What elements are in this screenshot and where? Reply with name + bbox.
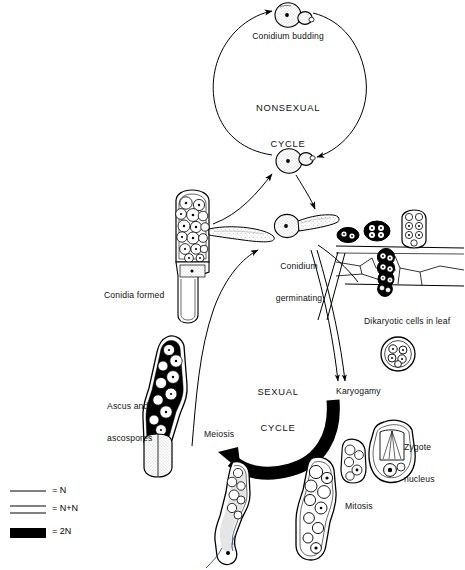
sexual-cycle-line1: SEXUAL (218, 386, 338, 398)
mitosis-label: Mitosis (345, 501, 373, 512)
zygote-nucleus-label: Zygote nucleus (404, 421, 435, 495)
dikaryotic-cells-label: Dikaryotic cells in leaf (364, 316, 450, 327)
zygote-label-line1: Zygote (404, 442, 435, 453)
legend-item-n: = N (52, 485, 66, 495)
arrow-conidiophore-to-hub (213, 174, 272, 224)
dikaryotic-cells (377, 248, 394, 296)
legend-item-2n: = 2N (52, 526, 71, 536)
legend-swatches (10, 491, 46, 538)
karyogamy-label: Karyogamy (336, 386, 381, 397)
arrow-hub-to-germinating (296, 175, 315, 209)
figure-canvas: NONSEXUAL CYCLE Conidium budding Conidiu… (0, 0, 465, 570)
conidium-germinating-label: Conidium germinating (254, 240, 344, 314)
sexual-cycle-label: SEXUAL CYCLE (218, 362, 338, 446)
conidium-germinating-cell (274, 214, 339, 237)
conidium-budding-cell (275, 3, 314, 28)
conidium-budding-label: Conidium budding (223, 31, 353, 42)
nonsexual-cycle-line2: CYCLE (228, 138, 348, 150)
conidium-germinating-line1: Conidium (254, 261, 344, 272)
ascus-label-line2: ascospores (107, 433, 152, 444)
meiosis-label: Meiosis (204, 429, 234, 440)
conidium-germinating-line2: germinating (254, 293, 344, 304)
ascus-ascospores-label: Ascus and ascospores (107, 380, 152, 454)
spore-chain-on-leaf (337, 210, 426, 248)
rounded-cell (381, 337, 415, 371)
conidia-formed-label: Conidia formed (104, 290, 164, 301)
nonsexual-cycle-line1: NONSEXUAL (228, 102, 348, 114)
ascus-label-line1: Ascus and (107, 401, 152, 412)
sexual-cycle-line2: CYCLE (218, 422, 338, 434)
nonsexual-cycle-label: NONSEXUAL CYCLE (228, 78, 348, 162)
legend-item-nn: = N+N (52, 503, 78, 513)
meiosis-product-cell (206, 462, 250, 568)
zygote-label-line2: nucleus (404, 474, 435, 485)
mitosis-cell-small (341, 439, 366, 483)
